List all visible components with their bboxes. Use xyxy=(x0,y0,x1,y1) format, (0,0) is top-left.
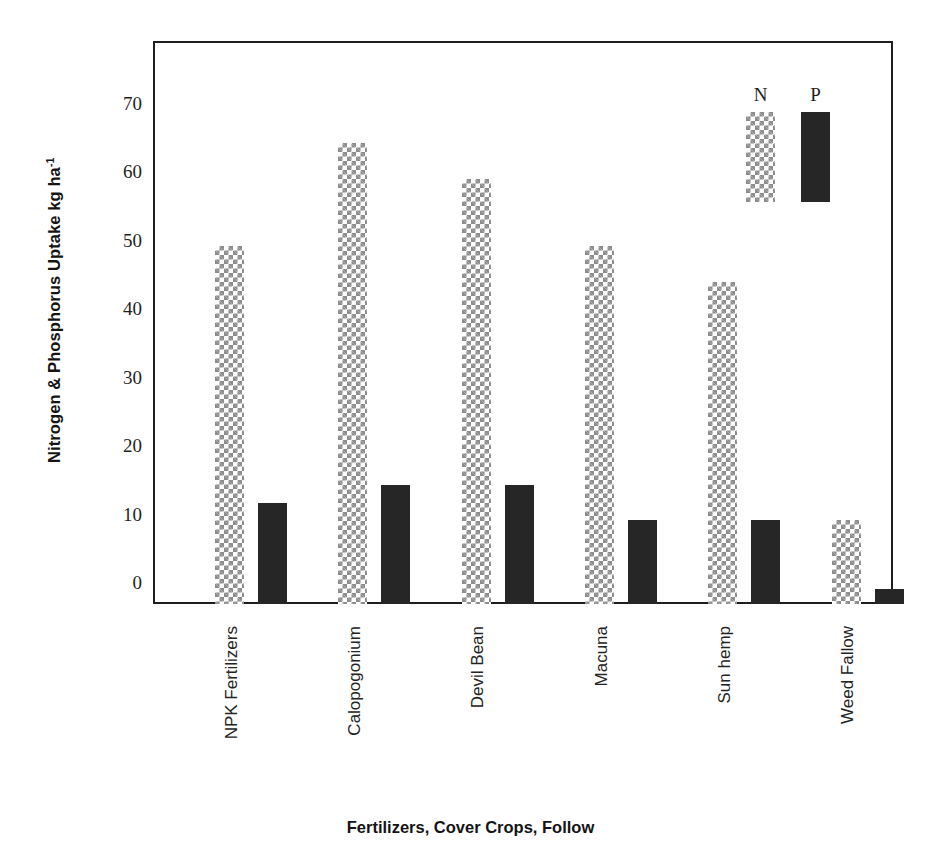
x-axis-title: Fertilizers, Cover Crops, Follow xyxy=(0,818,941,837)
x-axis-ticks: NPK FertilizersCalopogoniumDevil BeanMac… xyxy=(0,0,941,858)
chart-figure: Nitrogen & Phosphorus Uptake kg ha-1 010… xyxy=(0,0,941,858)
